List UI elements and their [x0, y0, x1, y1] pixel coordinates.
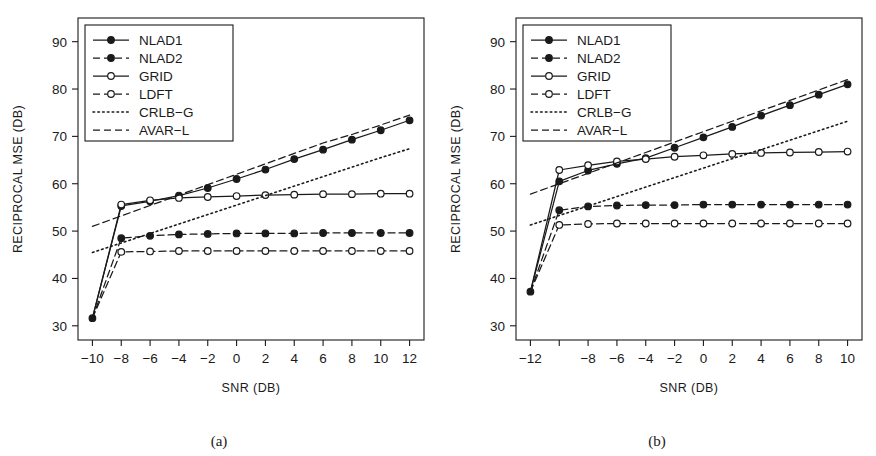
data-point: [406, 248, 413, 255]
legend: NLAD1NLAD2GRIDLDFTCRLB−GAVAR−L: [85, 25, 233, 141]
series-nlad2: [530, 201, 850, 291]
legend-label: LDFT: [139, 87, 173, 102]
data-point: [815, 201, 822, 208]
data-point: [585, 162, 592, 169]
chart-panel-b: −12−8−6−4−20246810SNR (DB)30405060708090…: [438, 0, 876, 456]
y-tick-label: 40: [490, 271, 505, 286]
x-tick-label: −8: [580, 351, 595, 366]
data-point: [291, 248, 298, 255]
x-tick-label: 10: [840, 351, 855, 366]
data-point: [204, 194, 211, 201]
data-point: [320, 191, 327, 198]
x-axis: −12−8−6−4−20246810SNR (DB): [519, 340, 855, 395]
y-axis: 30405060708090RECIPROCAL MSE (DB): [449, 35, 516, 334]
data-point: [614, 220, 621, 227]
data-point: [729, 151, 736, 158]
data-point: [844, 81, 851, 88]
y-tick-label: 80: [52, 82, 67, 97]
data-point: [204, 248, 211, 255]
panel-caption-b: (b): [438, 433, 876, 450]
data-point: [233, 193, 240, 200]
data-point: [406, 117, 413, 124]
data-point: [844, 148, 851, 155]
data-point: [787, 149, 794, 156]
y-tick-label: 30: [490, 319, 505, 334]
data-point: [204, 231, 211, 238]
x-tick-label: 0: [233, 351, 241, 366]
x-tick-label: −2: [200, 351, 215, 366]
y-tick-label: 90: [490, 35, 505, 50]
data-point: [406, 190, 413, 197]
data-point: [758, 220, 765, 227]
data-point: [556, 222, 563, 229]
y-tick-label: 50: [52, 224, 67, 239]
data-point: [671, 220, 678, 227]
legend-label: NLAD1: [577, 33, 621, 48]
x-tick-label: 10: [373, 351, 388, 366]
data-point: [700, 220, 707, 227]
data-point: [406, 230, 413, 237]
x-tick-label: 6: [319, 351, 327, 366]
legend-label: NLAD2: [577, 51, 621, 66]
data-point: [118, 249, 125, 256]
data-point: [262, 166, 269, 173]
y-axis-title: RECIPROCAL MSE (DB): [449, 105, 463, 253]
plot-area-b: −12−8−6−4−20246810SNR (DB)30405060708090…: [438, 0, 876, 400]
y-tick-label: 70: [490, 129, 505, 144]
legend-marker: [546, 55, 553, 62]
y-tick-label: 30: [52, 319, 67, 334]
data-point: [585, 221, 592, 228]
data-point: [700, 134, 707, 141]
series-line: [530, 224, 847, 292]
series-crlb-g: [92, 149, 409, 253]
x-axis: −10−8−6−4−2024681012SNR (DB): [81, 340, 417, 395]
series-ldft: [92, 248, 412, 319]
data-point: [642, 156, 649, 163]
x-tick-label: 2: [262, 351, 270, 366]
data-point: [377, 190, 384, 197]
data-point: [118, 235, 125, 242]
data-point: [787, 102, 794, 109]
x-tick-label: 4: [757, 351, 765, 366]
data-point: [787, 220, 794, 227]
series-nlad1: [89, 117, 413, 322]
legend-marker: [108, 91, 115, 98]
data-point: [700, 152, 707, 159]
data-point: [758, 201, 765, 208]
y-tick-label: 40: [52, 271, 67, 286]
x-axis-title: SNR (DB): [660, 381, 719, 395]
data-point: [176, 248, 183, 255]
data-point: [815, 91, 822, 98]
x-tick-label: 0: [700, 351, 708, 366]
legend-label: GRID: [577, 69, 611, 84]
legend-label: AVAR−L: [139, 123, 190, 138]
data-point: [349, 191, 356, 198]
legend-label: GRID: [139, 69, 173, 84]
x-tick-label: −4: [638, 351, 654, 366]
data-point: [377, 230, 384, 237]
data-point: [320, 248, 327, 255]
y-axis-title: RECIPROCAL MSE (DB): [11, 105, 25, 253]
x-axis-title: SNR (DB): [222, 381, 281, 395]
x-tick-label: −8: [114, 351, 129, 366]
data-point: [291, 230, 298, 237]
series-line: [92, 251, 409, 318]
data-point: [642, 220, 649, 227]
data-point: [815, 220, 822, 227]
legend-marker: [108, 73, 115, 80]
legend-label: AVAR−L: [577, 123, 628, 138]
series-nlad2: [92, 230, 412, 319]
legend-label: CRLB−G: [577, 105, 631, 120]
data-point: [614, 202, 621, 209]
data-point: [118, 201, 125, 208]
data-point: [556, 207, 563, 214]
legend-marker: [546, 73, 553, 80]
data-point: [320, 230, 327, 237]
data-point: [176, 231, 183, 238]
x-tick-label: −4: [171, 351, 187, 366]
legend-marker: [108, 55, 115, 62]
data-point: [291, 191, 298, 198]
data-point: [758, 112, 765, 119]
legend-label: LDFT: [577, 87, 611, 102]
data-point: [233, 176, 240, 183]
